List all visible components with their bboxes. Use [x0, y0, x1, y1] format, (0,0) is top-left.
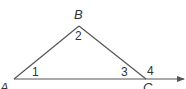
angle-label-1: 1 [32, 65, 39, 79]
angle-label-2: 2 [75, 29, 82, 43]
vertex-label-c: C [143, 80, 153, 89]
vertex-label-a: A [0, 80, 9, 89]
angle-label-3: 3 [121, 65, 128, 79]
angle-label-4: 4 [147, 64, 154, 78]
vertex-label-b: B [74, 7, 83, 22]
segment-bc [79, 26, 146, 79]
segment-ab [14, 26, 79, 79]
triangle-diagram: B A C 1 2 3 4 [0, 0, 186, 89]
